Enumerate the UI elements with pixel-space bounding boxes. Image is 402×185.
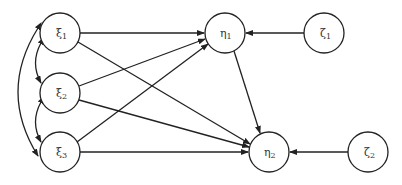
edge-eta1-eta2 <box>234 51 260 133</box>
node-zeta2: ζ2 <box>348 132 388 172</box>
edge-xi2-eta2 <box>79 100 249 147</box>
path-diagram: ξ1 ξ2 ξ3 η1 η2 ζ1 ζ2 <box>0 0 402 185</box>
node-xi1: ξ1 <box>40 13 80 53</box>
cov-xi1-xi2 <box>36 43 42 83</box>
edge-xi1-eta2 <box>78 42 250 144</box>
cov-xi1-xi3 <box>18 28 38 156</box>
edge-xi2-eta1 <box>79 39 205 86</box>
node-xi3: ξ3 <box>40 132 80 172</box>
node-eta2: η2 <box>249 132 289 172</box>
edge-xi3-eta1 <box>77 44 208 142</box>
node-zeta1: ζ1 <box>304 13 344 53</box>
node-xi2: ξ2 <box>40 73 80 113</box>
node-eta1: η1 <box>205 13 245 53</box>
cov-xi2-xi3 <box>36 102 42 142</box>
